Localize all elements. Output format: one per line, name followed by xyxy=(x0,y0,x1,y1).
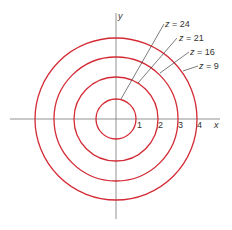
tick-1: 1 xyxy=(137,120,142,130)
label-z16: z = 16 xyxy=(189,47,215,57)
tick-4: 4 xyxy=(197,120,202,130)
tick-3: 3 xyxy=(178,120,183,130)
x-axis-label: x xyxy=(213,120,219,130)
label-z9: z = 9 xyxy=(198,61,219,71)
leader-z24 xyxy=(121,24,164,99)
y-axis-label: y xyxy=(117,11,123,21)
label-z24: z = 24 xyxy=(164,19,190,29)
leader-z9 xyxy=(183,66,198,71)
level-curves-diagram: z = 24 z = 21 z = 16 z = 9 1 2 3 4 x y xyxy=(0,0,232,230)
leader-z16 xyxy=(160,52,189,73)
label-z21: z = 21 xyxy=(178,33,204,43)
tick-2: 2 xyxy=(158,120,163,130)
